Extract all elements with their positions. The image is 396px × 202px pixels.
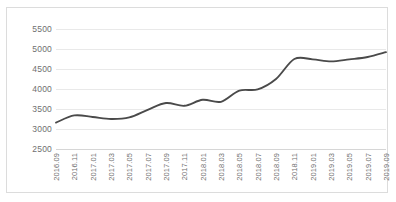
line-series — [56, 29, 386, 149]
gridline — [56, 149, 386, 150]
y-axis-tick-label: 4000 — [32, 84, 52, 94]
x-axis-tick-label: 2017.05 — [125, 153, 134, 181]
y-axis-tick-label: 5000 — [32, 44, 52, 54]
y-axis-tick-label: 2500 — [32, 144, 52, 154]
x-axis-tick-labels: 2016.092016.112017.012017.032017.052017.… — [56, 153, 386, 195]
series-path-line — [56, 52, 386, 122]
x-axis-tick-label: 2018.07 — [253, 153, 262, 181]
x-axis-tick-label: 2018.05 — [235, 153, 244, 181]
y-axis-tick-label: 4500 — [32, 64, 52, 74]
plot-area: 2500300035004000450050005500 — [56, 29, 386, 149]
x-axis-tick-label: 2019.05 — [345, 153, 354, 181]
x-axis-tick-label: 2019.01 — [308, 153, 317, 181]
x-axis-tick-label: 2019.07 — [363, 153, 372, 181]
y-axis-tick-label: 3500 — [32, 104, 52, 114]
x-axis-tick-label: 2017.03 — [107, 153, 116, 181]
x-axis-tick-label: 2019.09 — [382, 153, 391, 181]
y-axis-tick-label: 5500 — [32, 24, 52, 34]
x-axis-tick-label: 2018.03 — [217, 153, 226, 181]
x-axis-tick-label: 2016.11 — [70, 153, 79, 180]
x-axis-tick-label: 2017.09 — [162, 153, 171, 181]
x-axis-tick-label: 2019.03 — [327, 153, 336, 181]
x-axis-tick-label: 2018.01 — [198, 153, 207, 181]
y-axis-tick-label: 3000 — [32, 124, 52, 134]
x-axis-tick-label: 2017.01 — [88, 153, 97, 181]
x-axis-tick-label: 2018.11 — [290, 153, 299, 180]
x-axis-tick-label: 2017.07 — [143, 153, 152, 181]
chart-card: 2500300035004000450050005500 2016.092016… — [6, 7, 388, 193]
x-axis-tick-label: 2016.09 — [52, 153, 61, 181]
x-axis-tick-label: 2018.09 — [272, 153, 281, 181]
x-axis-tick-label: 2017.11 — [180, 153, 189, 180]
